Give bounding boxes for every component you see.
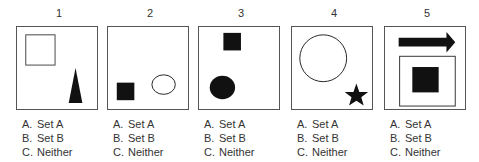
- figure-box: [16, 26, 98, 110]
- figure-box: [291, 26, 373, 110]
- option-a[interactable]: A.Set A: [297, 117, 347, 131]
- option-c[interactable]: C.Neither: [22, 145, 72, 159]
- option-c[interactable]: C.Neither: [113, 145, 163, 159]
- option-a[interactable]: A.Set A: [390, 117, 440, 131]
- option-a[interactable]: A.Set A: [113, 117, 163, 131]
- filled-square-icon: [412, 67, 438, 92]
- question-item-5: 5 A.Set A B.Set B C.Neither: [384, 0, 470, 162]
- option-a[interactable]: A.Set A: [22, 117, 72, 131]
- option-a[interactable]: A.Set A: [204, 117, 254, 131]
- answer-options: A.Set A B.Set B C.Neither: [113, 117, 163, 159]
- filled-circle-icon: [210, 76, 235, 99]
- option-c[interactable]: C.Neither: [297, 145, 347, 159]
- hollow-circle-icon: [300, 35, 347, 82]
- answer-options: A.Set A B.Set B C.Neither: [390, 117, 440, 159]
- option-b[interactable]: B.Set B: [297, 131, 347, 145]
- question-number: 2: [107, 7, 193, 19]
- question-number: 5: [384, 7, 470, 19]
- filled-triangle-icon: [69, 68, 83, 103]
- question-item-2: 2 A.Set A B.Set B C.Neither: [107, 0, 193, 162]
- figure: [292, 27, 372, 109]
- filled-square-icon: [117, 83, 135, 101]
- figure: [108, 27, 188, 109]
- filled-star-icon: [345, 84, 368, 106]
- figure-box: [198, 26, 280, 110]
- option-b[interactable]: B.Set B: [390, 131, 440, 145]
- figure: [199, 27, 279, 109]
- filled-square-icon: [223, 33, 241, 51]
- question-item-1: 1 A.Set A B.Set B C.Neither: [16, 0, 102, 162]
- option-c[interactable]: C.Neither: [204, 145, 254, 159]
- question-number: 4: [291, 7, 377, 19]
- option-c[interactable]: C.Neither: [390, 145, 440, 159]
- option-b[interactable]: B.Set B: [204, 131, 254, 145]
- figure: [17, 27, 97, 109]
- answer-options: A.Set A B.Set B C.Neither: [297, 117, 347, 159]
- question-number: 3: [198, 7, 284, 19]
- question-item-3: 3 A.Set A B.Set B C.Neither: [198, 0, 284, 162]
- question-number: 1: [16, 7, 102, 19]
- figure: [385, 27, 465, 109]
- question-item-4: 4 A.Set A B.Set B C.Neither: [291, 0, 377, 162]
- filled-arrow-right-icon: [399, 32, 456, 52]
- option-b[interactable]: B.Set B: [22, 131, 72, 145]
- figure-box: [384, 26, 466, 110]
- option-b[interactable]: B.Set B: [113, 131, 163, 145]
- hollow-square-icon: [26, 35, 55, 65]
- answer-options: A.Set A B.Set B C.Neither: [22, 117, 72, 159]
- hollow-circle-icon: [152, 75, 175, 95]
- answer-options: A.Set A B.Set B C.Neither: [204, 117, 254, 159]
- figure-box: [107, 26, 189, 110]
